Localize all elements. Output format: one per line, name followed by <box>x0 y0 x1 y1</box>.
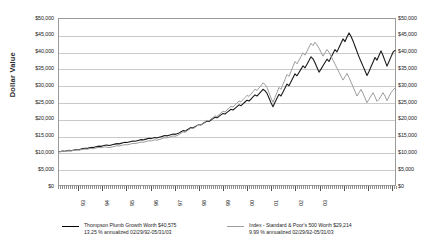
x-axis-minor-tick <box>269 186 270 189</box>
x-tick-label: 98 <box>201 200 207 206</box>
series-line-index <box>59 42 395 152</box>
x-axis-minor-tick <box>106 186 107 189</box>
x-axis-minor-tick <box>80 186 81 189</box>
x-axis-minor-tick <box>322 186 323 189</box>
x-axis-minor-tick <box>293 186 294 189</box>
x-axis-minor-tick <box>299 186 300 189</box>
x-axis-minor-tick <box>314 186 315 189</box>
x-axis-minor-tick <box>171 186 172 189</box>
x-axis-minor-tick <box>177 186 178 189</box>
x-axis-minor-tick <box>334 186 335 189</box>
x-axis-minor-tick <box>124 186 125 189</box>
x-axis-minor-tick <box>364 186 365 189</box>
y-tick-label-right: $15,000 <box>398 132 417 139</box>
x-axis-minor-tick <box>376 186 377 189</box>
y-tick-label: $20,000 <box>35 115 54 122</box>
x-axis-minor-tick <box>336 186 337 189</box>
x-axis-minor-tick <box>394 186 395 189</box>
x-axis-minor-tick <box>114 186 115 189</box>
x-axis-minor-tick <box>360 186 361 189</box>
x-axis-minor-tick <box>239 186 240 189</box>
x-axis-minor-tick <box>167 186 168 189</box>
x-axis-minor-tick <box>122 186 123 189</box>
y-tick-label-right: $35,000 <box>398 65 417 72</box>
x-axis-minor-tick <box>261 186 262 189</box>
x-axis-minor-tick <box>179 186 180 189</box>
x-axis-major-tick <box>78 186 79 191</box>
x-axis-minor-tick <box>328 186 329 189</box>
y-tick-label-right: $5,000 <box>398 166 414 173</box>
x-axis-minor-tick <box>346 186 347 189</box>
x-axis-minor-tick <box>159 186 160 189</box>
x-axis-major-tick <box>392 186 393 191</box>
x-axis-minor-tick <box>82 186 83 189</box>
x-tick-label: 97 <box>177 200 183 206</box>
x-axis-minor-tick <box>86 186 87 189</box>
x-axis-minor-tick <box>118 186 119 189</box>
x-tick-label: 99 <box>225 200 231 206</box>
x-axis-minor-tick <box>136 186 137 189</box>
x-axis-minor-tick <box>237 186 238 189</box>
x-axis-minor-tick <box>143 186 144 189</box>
x-axis-minor-tick <box>217 186 218 189</box>
x-axis-minor-tick <box>62 186 63 189</box>
x-axis-major-tick <box>199 186 200 191</box>
x-axis-minor-tick <box>163 186 164 189</box>
x-axis-minor-tick <box>370 186 371 189</box>
x-axis-minor-tick <box>285 186 286 189</box>
x-axis-minor-tick <box>354 186 355 189</box>
legend-text-index: Index - Standard & Poor's 500 Worth $29,… <box>249 222 352 236</box>
x-axis-minor-tick <box>245 186 246 189</box>
y-tick-label-right: $45,000 <box>398 31 417 38</box>
x-axis-minor-tick <box>243 186 244 189</box>
x-axis-minor-tick <box>96 186 97 189</box>
x-axis-minor-tick <box>205 186 206 189</box>
x-tick-label: 02 <box>298 200 304 206</box>
x-axis-minor-tick <box>362 186 363 189</box>
x-axis-minor-tick <box>169 186 170 189</box>
x-axis-minor-tick <box>92 186 93 189</box>
y-tick-label: $50,000 <box>35 15 54 22</box>
y-tick-label: $10,000 <box>35 149 54 156</box>
x-axis-minor-tick <box>303 186 304 189</box>
x-axis-minor-tick <box>380 186 381 189</box>
x-axis-minor-tick <box>324 186 325 189</box>
y-tick-label: $15,000 <box>35 132 54 139</box>
x-axis-major-tick <box>175 186 176 191</box>
x-axis-minor-tick <box>390 186 391 189</box>
x-axis-minor-tick <box>104 186 105 189</box>
x-axis-minor-tick <box>352 186 353 189</box>
x-axis-minor-tick <box>98 186 99 189</box>
series-line-primary <box>59 33 395 152</box>
x-axis-minor-tick <box>215 186 216 189</box>
legend-swatch-primary-icon <box>62 226 79 227</box>
x-axis-major-tick <box>320 186 321 191</box>
x-axis-minor-tick <box>221 186 222 189</box>
x-axis-minor-tick <box>257 186 258 189</box>
x-axis-minor-tick <box>187 186 188 189</box>
y-tick-label-right: $30,000 <box>398 82 417 89</box>
x-axis-minor-tick <box>366 186 367 189</box>
x-axis-minor-tick <box>213 186 214 189</box>
x-tick-label: 96 <box>153 200 159 206</box>
x-axis-minor-tick <box>195 186 196 189</box>
x-axis-minor-tick <box>309 186 310 189</box>
x-axis-minor-tick <box>193 186 194 189</box>
x-axis-minor-tick <box>384 186 385 189</box>
x-axis-minor-tick <box>165 186 166 189</box>
x-axis-minor-tick <box>267 186 268 189</box>
x-axis-minor-tick <box>191 186 192 189</box>
x-axis-minor-tick <box>330 186 331 189</box>
x-axis-minor-tick <box>116 186 117 189</box>
y-tick-label: $35,000 <box>35 65 54 72</box>
x-axis-minor-tick <box>68 186 69 189</box>
x-axis-minor-tick <box>209 186 210 189</box>
x-axis-minor-tick <box>58 186 59 189</box>
x-axis-minor-tick <box>157 186 158 189</box>
x-axis-minor-tick <box>140 186 141 189</box>
x-axis-minor-tick <box>348 186 349 189</box>
x-axis-minor-tick <box>356 186 357 189</box>
x-axis-minor-tick <box>189 186 190 189</box>
x-axis-minor-tick <box>281 186 282 189</box>
x-axis-major-tick <box>344 186 345 191</box>
